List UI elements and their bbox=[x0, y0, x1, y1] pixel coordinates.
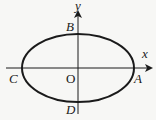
origin-label: O bbox=[66, 71, 75, 86]
point-a-label: A bbox=[133, 71, 142, 86]
y-axis-label: y bbox=[73, 0, 81, 13]
ellipse-diagram: y x B C O A D bbox=[0, 0, 156, 120]
x-axis-label: x bbox=[141, 46, 148, 61]
point-d-label: D bbox=[65, 102, 76, 117]
point-b-label: B bbox=[66, 19, 74, 34]
point-c-label: C bbox=[9, 71, 18, 86]
